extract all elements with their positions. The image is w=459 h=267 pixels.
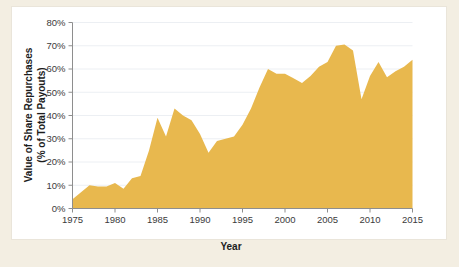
y-axis-title-line2: (% of Total Payouts) [36,67,47,162]
y-tick-label: 0% [52,203,66,214]
x-tick-label: 2000 [274,214,295,225]
y-axis-title-line1: Value of Share Repurchases [23,47,34,182]
x-tick-label: 1975 [62,214,83,225]
y-tick-label: 10% [46,180,66,191]
x-tick-label: 1980 [104,214,125,225]
x-tick-label: 2010 [359,214,380,225]
y-axis-title: Value of Share Repurchases (% of Total P… [23,47,47,182]
chart-plot-wrapper: 0%10%20%30%40%50%60%70%80% 1975198019851… [0,0,459,267]
x-tick-label: 2005 [317,214,338,225]
y-tick-label: 40% [46,110,66,121]
figure-container: 0%10%20%30%40%50%60%70%80% 1975198019851… [0,0,459,267]
x-axis-ticks: 197519801985199019952000200520102015 [62,209,423,225]
x-tick-label: 1990 [189,214,210,225]
y-tick-label: 30% [46,133,66,144]
y-tick-label: 20% [46,156,66,167]
x-axis-title: Year [220,241,241,252]
x-tick-label: 2015 [402,214,423,225]
y-tick-label: 80% [46,17,66,28]
y-tick-label: 70% [46,40,66,51]
y-tick-label: 60% [46,63,66,74]
y-axis-ticks: 0%10%20%30%40%50%60%70%80% [46,17,72,214]
area-chart: 0%10%20%30%40%50%60%70%80% 1975198019851… [0,0,459,267]
y-tick-label: 50% [46,87,66,98]
x-tick-label: 1995 [232,214,253,225]
x-tick-label: 1985 [147,214,168,225]
